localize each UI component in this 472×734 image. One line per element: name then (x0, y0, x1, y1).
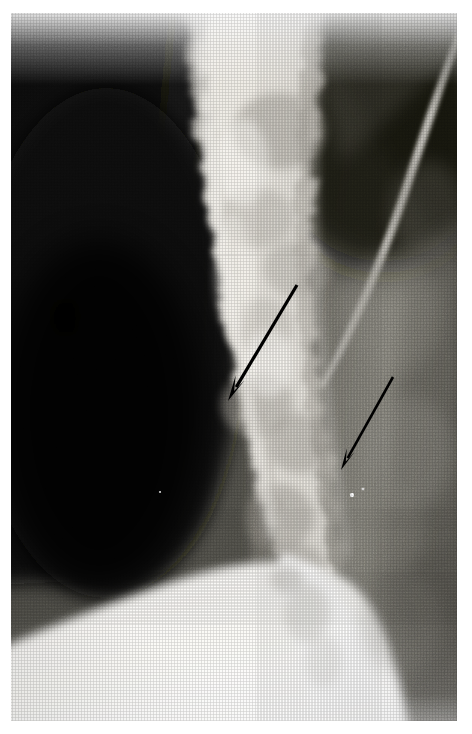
radiograph-figure (0, 0, 472, 734)
annotation-arrow-layer (11, 13, 457, 721)
radiograph-plate (11, 13, 457, 721)
arrow-upper (228, 285, 297, 401)
arrow-lower (341, 377, 393, 470)
